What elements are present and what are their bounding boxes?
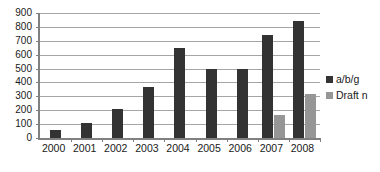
bar-draft-n-2008 <box>305 94 316 138</box>
x-axis-tick-label: 2007 <box>256 142 287 154</box>
y-axis-tick-label: 800 <box>0 22 32 32</box>
bar-group <box>71 13 102 138</box>
bar-a-b-g-2008 <box>293 21 304 138</box>
legend-item-draft-n: Draft n <box>326 87 380 103</box>
bar-a-b-g-2001 <box>81 123 92 138</box>
bar-group <box>164 13 195 138</box>
y-axis-tick-mark <box>36 69 40 70</box>
bar-a-b-g-2007 <box>262 35 273 138</box>
x-axis-tick-label: 2008 <box>287 142 318 154</box>
y-axis-tick-label: 600 <box>0 50 32 60</box>
x-axis-tick-label: 2004 <box>162 142 193 154</box>
y-axis-tick-label: 200 <box>0 105 32 115</box>
x-axis-tick-label: 2006 <box>225 142 256 154</box>
legend-item-a-b-g: a/b/g <box>326 71 380 87</box>
x-axis-tick-label: 2002 <box>100 142 131 154</box>
x-axis-tick-label: 2003 <box>131 142 162 154</box>
bar-group <box>258 13 289 138</box>
dark-square-swatch <box>326 76 333 83</box>
legend-label: Draft n <box>336 89 368 101</box>
bar-a-b-g-2002 <box>112 109 123 138</box>
bar-draft-n-2007 <box>274 115 285 138</box>
y-axis-tick-mark <box>36 138 40 139</box>
y-axis-tick-label: 500 <box>0 64 32 74</box>
y-axis-tick-mark <box>36 110 40 111</box>
bar-group <box>102 13 133 138</box>
x-axis-tick-label: 2001 <box>69 142 100 154</box>
y-axis-tick-label: 100 <box>0 119 32 129</box>
x-axis-tick-label: 2005 <box>194 142 225 154</box>
x-axis-tick-mark <box>320 138 321 142</box>
y-axis-tick-label: 900 <box>0 8 32 18</box>
y-axis-tick-mark <box>36 13 40 14</box>
y-axis-tick-mark <box>36 27 40 28</box>
bar-chart: 0100200300400500600700800900 20002001200… <box>0 0 380 172</box>
bar-a-b-g-2006 <box>237 69 248 138</box>
bar-a-b-g-2003 <box>143 87 154 138</box>
y-axis-tick-mark <box>36 124 40 125</box>
x-axis-tick-label: 2000 <box>38 142 69 154</box>
legend-label: a/b/g <box>336 73 359 85</box>
bar-group <box>133 13 164 138</box>
chart-legend: a/b/gDraft n <box>326 71 380 103</box>
y-axis-tick-label: 300 <box>0 91 32 101</box>
y-axis-tick-label: 400 <box>0 77 32 87</box>
bar-group <box>227 13 258 138</box>
y-axis-tick-mark <box>36 55 40 56</box>
bar-group <box>289 13 320 138</box>
y-axis-tick-mark <box>36 96 40 97</box>
bar-group <box>196 13 227 138</box>
x-axis-tick-labels: 200020012002200320042005200620072008 <box>38 142 318 162</box>
bar-group <box>40 13 71 138</box>
y-axis-tick-label: 700 <box>0 36 32 46</box>
bar-a-b-g-2000 <box>50 130 61 138</box>
y-axis-tick-labels: 0100200300400500600700800900 <box>0 13 36 138</box>
gray-square-swatch <box>326 92 333 99</box>
bar-a-b-g-2004 <box>174 48 185 138</box>
y-axis-tick-mark <box>36 41 40 42</box>
y-axis-tick-mark <box>36 82 40 83</box>
plot-area <box>38 13 320 140</box>
y-axis-tick-label: 0 <box>0 133 32 143</box>
bar-a-b-g-2005 <box>206 69 217 138</box>
